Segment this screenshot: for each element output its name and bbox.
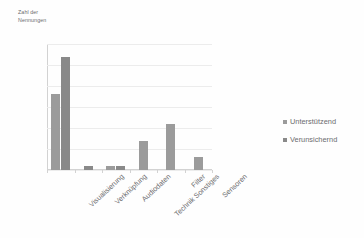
bar — [51, 94, 60, 170]
bar-group — [47, 44, 75, 170]
chart-legend: UnterstützendVerunsichernd — [283, 117, 363, 153]
plot-area — [47, 44, 212, 170]
bar — [194, 157, 203, 170]
legend-swatch-icon — [283, 120, 287, 124]
bar — [61, 57, 70, 170]
x-axis-tick-labels: VisualisierungVerknüpfungAudiodatenTechn… — [47, 172, 267, 236]
y-axis-title: Zahl der Nennungen — [18, 9, 88, 24]
legend-item[interactable]: Verunsichernd — [283, 135, 363, 144]
x-axis-tick-label: Sensoren — [221, 172, 250, 200]
bar-group — [102, 44, 130, 170]
bar-group — [157, 44, 185, 170]
legend-swatch-icon — [283, 138, 287, 142]
bar — [139, 141, 148, 170]
bar — [84, 166, 93, 170]
bar-group — [185, 44, 213, 170]
bar-group — [75, 44, 103, 170]
legend-item-label: Verunsichernd — [290, 135, 337, 144]
bars-layer — [47, 44, 212, 170]
bar — [116, 166, 125, 170]
legend-item-label: Unterstützend — [290, 117, 336, 126]
bar — [106, 166, 115, 170]
legend-item[interactable]: Unterstützend — [283, 117, 363, 126]
bar — [166, 124, 175, 170]
bar-chart: Zahl der Nennungen 302520151050 Visualis… — [0, 0, 364, 238]
bar-group — [130, 44, 158, 170]
